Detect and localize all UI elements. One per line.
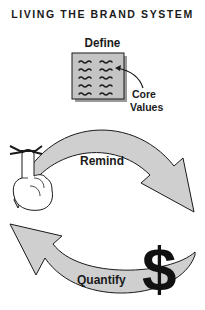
- core-values-label-line1: Core: [132, 88, 156, 100]
- quantify-label: Quantify: [77, 273, 126, 287]
- document-icon: [72, 53, 127, 102]
- core-values-label-line2: Values: [130, 101, 163, 113]
- brand-system-diagram: Core Values Remind Quantify $: [0, 0, 205, 310]
- remind-label: Remind: [80, 154, 124, 168]
- dollar-sign-icon: $: [142, 234, 176, 303]
